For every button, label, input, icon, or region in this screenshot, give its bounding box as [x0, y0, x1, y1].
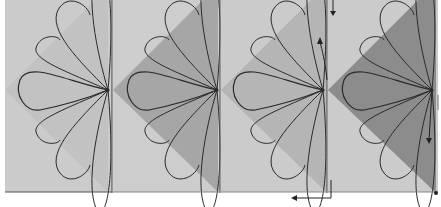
panel-3: [221, 0, 327, 207]
panel-2: [113, 0, 220, 207]
end-point-icon: [434, 191, 438, 195]
panel-1: [5, 0, 112, 207]
panel-4: [328, 0, 438, 207]
feather-diagram: [0, 0, 441, 207]
